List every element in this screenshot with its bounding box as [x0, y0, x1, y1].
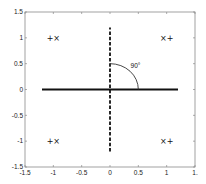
- x-tick-label: -1: [50, 169, 56, 176]
- x-tick-label: 0.5: [134, 169, 143, 176]
- angle-annotation: 90°: [131, 62, 141, 69]
- x-tick-label: -0.5: [76, 169, 88, 176]
- y-tick-label: -0.5: [12, 112, 24, 119]
- x-tick-label: 0: [108, 169, 112, 176]
- point-marker: ×+: [160, 137, 173, 146]
- x-tick-label: 1.: [192, 169, 198, 176]
- point-marker: +×: [47, 34, 60, 43]
- annotations: 90°: [131, 62, 141, 69]
- chart: 1.510.50-0.5-1-1.5 -1.5-1-0.500.511. +××…: [0, 0, 206, 184]
- x-tick-label: -1.5: [19, 169, 31, 176]
- y-axis-tick-labels: 1.510.50-0.5-1-1.5: [12, 8, 24, 170]
- y-tick-label: -1: [17, 137, 23, 144]
- x-tick-label: 1: [165, 169, 169, 176]
- x-axis-tick-labels: -1.5-1-0.500.511.: [19, 169, 198, 176]
- point-marker: +×: [47, 137, 60, 146]
- y-tick-label: 1: [19, 34, 23, 41]
- point-marker: ×+: [160, 34, 173, 43]
- y-tick-label: 1.5: [14, 8, 23, 15]
- y-tick-label: 0.5: [14, 60, 23, 67]
- y-tick-label: 0: [19, 86, 23, 93]
